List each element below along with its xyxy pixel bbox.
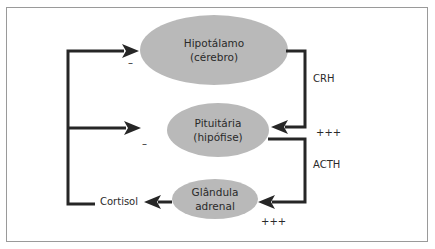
- crh-stimulation-label: +++: [316, 128, 341, 138]
- hipotalamo-inhibition-label: –: [128, 58, 133, 68]
- adrenal-line2: adrenal: [165, 199, 265, 213]
- hipotalamo-label: Hipotálamo (cérebro): [164, 36, 264, 64]
- pituitaria-inhibition-label: –: [142, 139, 147, 149]
- crh-label: CRH: [313, 74, 334, 84]
- hipotalamo-line2: (cérebro): [164, 50, 264, 64]
- crh-line: [285, 51, 305, 127]
- pituitaria-label: Pituitária (hipófise): [168, 116, 268, 144]
- acth-stimulation-label: +++: [261, 217, 286, 227]
- adrenal-label: Glândula adrenal: [165, 185, 265, 213]
- pituitaria-line2: (hipófise): [168, 130, 268, 144]
- arrow-to-pituitaria-icon: [124, 121, 141, 135]
- arrow-to-hipotalamo-icon: [122, 44, 139, 58]
- cortisol-label: Cortisol: [100, 197, 138, 207]
- cortisol-feedback-lines: [68, 51, 126, 204]
- acth-label: ACTH: [313, 160, 340, 170]
- adrenal-line1: Glândula: [165, 185, 265, 199]
- pituitaria-line1: Pituitária: [168, 116, 268, 130]
- acth-line: [268, 139, 305, 202]
- hipotalamo-line1: Hipotálamo: [164, 36, 264, 50]
